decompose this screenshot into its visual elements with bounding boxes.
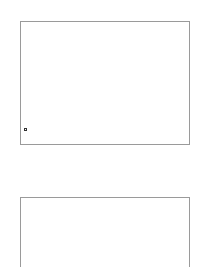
chart-bottom xyxy=(0,185,195,245)
series-layer-bottom xyxy=(0,185,195,245)
series-layer-top xyxy=(0,0,195,165)
legend-marker-icon xyxy=(24,128,27,131)
legend-top xyxy=(24,128,29,131)
chart-top xyxy=(0,0,195,165)
